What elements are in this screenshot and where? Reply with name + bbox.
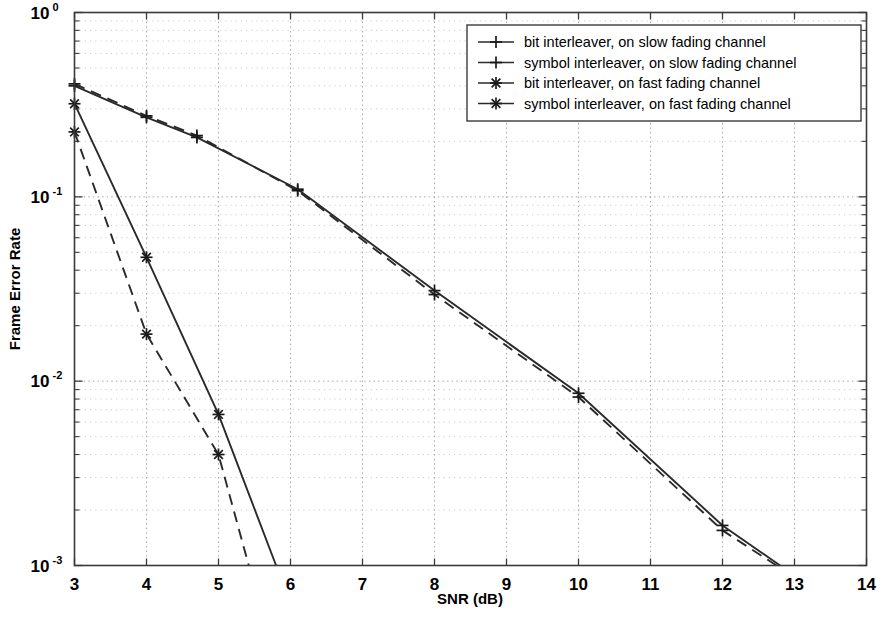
y-axis-label: Frame Error Rate <box>6 228 23 351</box>
svg-text:-3: -3 <box>53 554 63 566</box>
x-tick-label: 12 <box>713 575 732 594</box>
data-point-marker <box>490 77 502 89</box>
legend: bit interleaver, on slow fading channels… <box>467 25 861 121</box>
legend-label: bit interleaver, on fast fading channel <box>524 75 760 91</box>
legend-label: symbol interleaver, on fast fading chann… <box>524 96 791 112</box>
data-point-marker <box>141 328 153 340</box>
x-tick-label: 13 <box>785 575 804 594</box>
data-point-marker <box>213 408 225 420</box>
svg-text:10: 10 <box>31 188 50 207</box>
data-point-marker <box>141 251 153 263</box>
svg-text:0: 0 <box>53 1 59 13</box>
svg-text:10: 10 <box>31 557 50 576</box>
x-tick-label: 14 <box>857 575 876 594</box>
svg-text:-1: -1 <box>53 185 63 197</box>
x-tick-label: 3 <box>70 575 79 594</box>
data-point-marker <box>213 449 225 461</box>
legend-label: bit interleaver, on slow fading channel <box>524 34 766 50</box>
svg-text:-2: -2 <box>53 369 63 381</box>
x-tick-label: 9 <box>502 575 511 594</box>
svg-text:10: 10 <box>31 4 50 23</box>
legend-item[interactable]: symbol interleaver, on slow fading chann… <box>478 55 796 71</box>
legend-item[interactable]: symbol interleaver, on fast fading chann… <box>478 96 791 112</box>
frame-error-rate-plot: 34567891011121314 10010-110-210-3 SNR (d… <box>0 0 890 620</box>
x-tick-label: 4 <box>142 575 152 594</box>
x-axis-label: SNR (dB) <box>437 590 503 607</box>
svg-text:10: 10 <box>31 372 50 391</box>
x-tick-label: 6 <box>286 575 295 594</box>
x-tick-label: 5 <box>214 575 223 594</box>
data-point-marker <box>490 98 502 110</box>
x-tick-label: 10 <box>569 575 588 594</box>
chart-canvas: 34567891011121314 10010-110-210-3 SNR (d… <box>0 0 890 620</box>
x-tick-label: 7 <box>358 575 367 594</box>
legend-label: symbol interleaver, on slow fading chann… <box>524 55 796 71</box>
x-tick-label: 11 <box>642 575 660 594</box>
